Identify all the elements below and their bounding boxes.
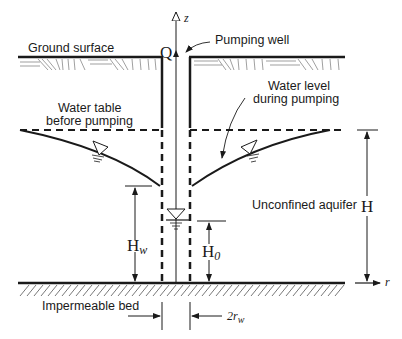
discharge-arrow [173,50,179,57]
h0-label: H0 [202,242,220,263]
hw-dimension [125,186,152,281]
ground-surface-label: Ground surface [28,41,114,55]
discharge-label: Q [160,43,172,62]
h-label: H [361,197,373,216]
water-level-leader [222,98,245,158]
pumping-well-leader [186,42,210,52]
well-diameter-dimension [128,302,222,330]
r-axis-label: r [385,275,390,289]
water-level-label-2: during pumping [253,92,339,106]
water-table-label-2: before pumping [46,114,133,128]
well-diameter-label: 2rw [227,309,245,325]
impermeable-bed-label: Impermeable bed [42,299,139,313]
unconfined-aquifer-well-diagram: Ground surface z Q Pumping well Water ta… [0,0,402,339]
well-water-level-symbol [166,209,190,229]
impermeable-bed [18,283,345,296]
unconfined-aquifer-label: Unconfined aquifer [252,198,357,212]
water-level-label-1: Water level [268,79,330,93]
hw-label: Hw [127,236,147,257]
ground-hatch [20,59,339,70]
ground-surface [18,57,345,70]
drawdown-curve [20,130,330,186]
pumping-well-label: Pumping well [215,33,289,47]
z-axis-label: z [183,11,189,25]
water-table-label-1: Water table [58,101,122,115]
